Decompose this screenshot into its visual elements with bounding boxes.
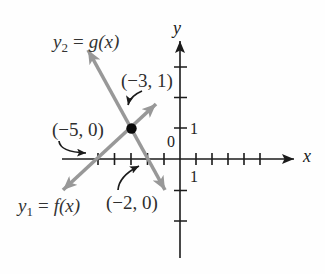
label-f-equation: y1=f(x) <box>16 195 80 219</box>
f-equation-var: y <box>16 195 27 216</box>
f-equation-equals: = <box>38 195 49 216</box>
f-equation-sub: 1 <box>26 204 33 219</box>
y-axis-letter: y <box>171 18 181 38</box>
label-g-x-intercept: (−2, 0) <box>106 192 158 214</box>
intersection-point-dot <box>126 123 136 133</box>
coordinate-plane-figure: y2=g(x) y1=f(x) (−3, 1) (−5, 0) (−2, 0) … <box>0 0 325 274</box>
y-unit-label: 1 <box>190 120 198 137</box>
annotation-arrow-intersection <box>128 91 142 105</box>
f-equation-func: f(x) <box>54 195 80 217</box>
annotation-arrow-f-intercept <box>59 141 86 153</box>
label-intersection-point: (−3, 1) <box>121 70 173 92</box>
g-equation-func: g(x) <box>89 31 120 53</box>
g-equation-equals: = <box>73 31 84 52</box>
label-f-x-intercept: (−5, 0) <box>52 119 104 141</box>
x-unit-label: 1 <box>190 168 198 185</box>
annotation-arrow-g-intercept <box>118 166 139 190</box>
g-equation-var: y <box>51 31 62 52</box>
label-g-equation: y2=g(x) <box>51 31 119 55</box>
x-axis-letter: x <box>302 146 311 166</box>
function-graph-svg: y2=g(x) y1=f(x) (−3, 1) (−5, 0) (−2, 0) … <box>0 0 325 274</box>
g-equation-sub: 2 <box>61 40 68 55</box>
origin-label: 0 <box>167 133 175 150</box>
